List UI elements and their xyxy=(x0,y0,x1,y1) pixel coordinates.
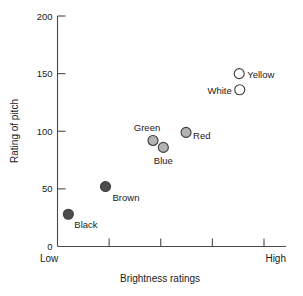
data-point: Blue xyxy=(154,142,173,166)
data-point-group: BlackBrownGreenBlueRedYellowWhite xyxy=(63,69,274,231)
y-axis-tick-label: 200 xyxy=(37,11,53,22)
y-axis-title: Rating of pitch xyxy=(9,99,20,163)
x-axis-title: Brightness ratings xyxy=(120,273,200,284)
data-point-label-black: Black xyxy=(74,219,97,230)
x-axis-high-label: High xyxy=(265,253,286,264)
data-point-label-yellow: Yellow xyxy=(247,69,274,80)
data-point: Red xyxy=(181,127,210,141)
data-point: Black xyxy=(63,209,97,230)
data-point: Brown xyxy=(101,182,140,203)
data-point: Yellow xyxy=(234,69,274,80)
data-point-marker-brown xyxy=(101,182,111,192)
data-point: Green xyxy=(134,122,160,145)
y-axis-tick-label: 100 xyxy=(37,126,53,137)
scatter-plot-figure: 050100150200 BlackBrownGreenBlueRedYello… xyxy=(0,0,303,296)
chart-canvas: 050100150200 BlackBrownGreenBlueRedYello… xyxy=(0,0,303,296)
y-axis-tick-group: 050100150200 xyxy=(37,11,66,253)
data-point-marker-white xyxy=(235,85,245,95)
data-point-marker-blue xyxy=(158,142,168,152)
data-point-label-brown: Brown xyxy=(113,192,140,203)
data-point: White xyxy=(207,85,244,96)
data-point-label-red: Red xyxy=(193,130,210,141)
data-point-label-blue: Blue xyxy=(154,155,173,166)
data-point-marker-yellow xyxy=(234,69,244,79)
x-axis-tick-group xyxy=(109,239,264,247)
x-axis-low-label: Low xyxy=(40,253,59,264)
data-point-label-white: White xyxy=(207,85,231,96)
y-axis-tick-label: 150 xyxy=(37,68,53,79)
y-axis-tick-label: 0 xyxy=(47,241,52,252)
y-axis-tick-label: 50 xyxy=(42,183,53,194)
data-point-marker-green xyxy=(148,135,158,145)
data-point-marker-red xyxy=(181,127,191,137)
data-point-marker-black xyxy=(63,209,73,219)
data-point-label-green: Green xyxy=(134,122,160,133)
